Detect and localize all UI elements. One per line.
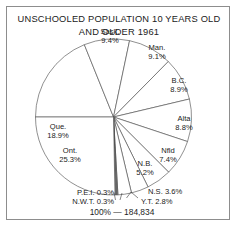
slice-label-man-name: Man.	[149, 43, 166, 52]
pie-chart: Que. 18.9% Sask. 9.4% Man. 9.1% B.C. 8.9…	[7, 7, 231, 221]
slice-label-nb-pct: 5.2%	[136, 168, 154, 177]
slice-label-alta-pct: 8.8%	[175, 123, 193, 132]
slice-label-man-pct: 9.1%	[148, 52, 166, 61]
callout-label-yt: Y.T. 2.8%	[141, 197, 173, 206]
pie-chart-svg: Que. 18.9% Sask. 9.4% Man. 9.1% B.C. 8.9…	[7, 7, 231, 221]
slice-label-que-name: Que.	[50, 122, 66, 131]
callout-label-nwt: N.W.T. 0.3%	[72, 197, 114, 206]
figure-frame: UNSCHOOLED POPULATION 10 YEARS OLD AND O…	[6, 6, 230, 220]
slice-label-nb-name: N.B.	[138, 159, 153, 168]
slice-label-ont-pct: 25.3%	[59, 155, 81, 164]
pie-slices	[36, 39, 192, 195]
chart-total-label: 100% — 184,834	[90, 207, 155, 217]
callout-label-ns: N.S. 3.6%	[148, 187, 182, 196]
slice-label-nfld-name: Nfld	[161, 146, 175, 155]
slice-label-sask-pct: 9.4%	[101, 36, 119, 45]
slice-label-ont-name: Ont.	[63, 146, 77, 155]
slice-label-sask-name: Sask.	[101, 27, 120, 36]
slice-label-bc-pct: 8.9%	[170, 85, 188, 94]
callout-label-pei: P.E.I. 0.3%	[77, 188, 114, 197]
slice-label-bc-name: B.C.	[172, 76, 187, 85]
slice-label-que-pct: 18.9%	[47, 131, 69, 140]
slice-label-nfld-pct: 7.4%	[159, 155, 177, 164]
slice-label-alta-name: Alta	[177, 114, 191, 123]
